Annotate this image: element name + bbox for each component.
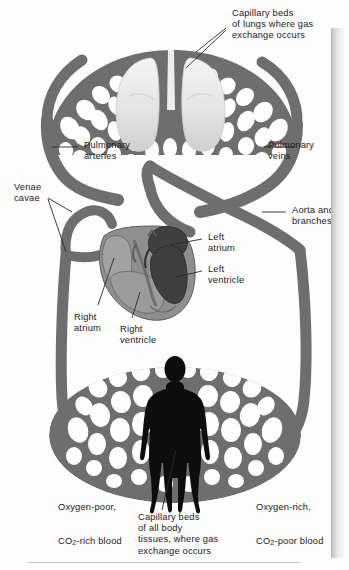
label-oxygen-poor-line1: Oxygen-poor, — [58, 502, 122, 513]
leader-lung-capillaries-upper — [196, 28, 226, 52]
co2-prefix-rich: CO — [256, 536, 270, 546]
label-pulmonary-veins: Pulmonary veins — [268, 140, 314, 162]
co2-suffix-poor: -rich blood — [76, 536, 121, 546]
ascending-aorta — [150, 188, 190, 232]
label-venae-cavae: Venae cavae — [14, 182, 41, 204]
label-oxygen-poor: Oxygen-poor, CO2-rich blood — [58, 480, 122, 570]
page-edge-shadow — [331, 28, 344, 558]
label-right-atrium: Right atrium — [74, 312, 101, 334]
label-left-atrium: Left atrium — [208, 232, 235, 254]
circulatory-system-figure: Capillary beds of lungs where gas exchan… — [0, 0, 349, 570]
label-oxygen-rich-line2: CO2-poor blood — [256, 536, 324, 548]
label-left-ventricle: Left ventricle — [208, 264, 244, 286]
page-bottom-rule — [28, 562, 300, 563]
label-oxygen-rich-line1: Oxygen-rich, — [256, 502, 324, 513]
label-oxygen-rich: Oxygen-rich, CO2-poor blood — [256, 480, 324, 570]
label-right-ventricle: Right ventricle — [120, 324, 156, 346]
label-body-capillary-beds: Capillary beds of all body tissues, wher… — [138, 512, 218, 557]
trachea-shape — [167, 50, 175, 110]
label-aorta-and-branches: Aorta and branches — [292, 205, 334, 227]
co2-prefix-poor: CO — [58, 536, 72, 546]
label-lung-capillary-beds: Capillary beds of lungs where gas exchan… — [232, 8, 313, 42]
label-pulmonary-arteries: Pulmonary arteries — [84, 140, 130, 162]
inferior-vena-cava-entry — [66, 254, 104, 257]
co2-suffix-rich: -poor blood — [274, 536, 323, 546]
label-oxygen-poor-line2: CO2-rich blood — [58, 536, 122, 548]
pulmonary-circuit — [47, 50, 298, 212]
